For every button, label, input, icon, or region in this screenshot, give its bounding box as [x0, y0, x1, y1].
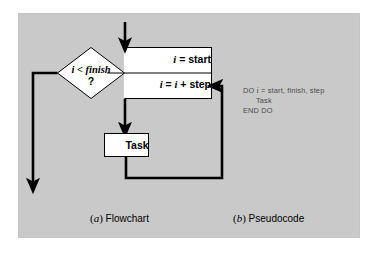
- pseudocode-do-range: = start, finish, step: [259, 86, 325, 95]
- init-expression: = start: [176, 53, 211, 65]
- caption-pseudocode: (b) Pseudocode: [233, 212, 304, 224]
- figure-root: i < finish ? i = start i = i + step Task…: [0, 0, 380, 253]
- pseudocode-task-text: Task: [256, 96, 272, 105]
- condition-label: i < finish ?: [60, 64, 122, 87]
- pseudocode-line-do: DO i = start, finish, step: [243, 86, 324, 96]
- caption-a-letter: a: [94, 212, 100, 224]
- caption-a-marker: (a): [90, 212, 103, 224]
- caption-b-marker: (b): [233, 212, 246, 224]
- pseudocode-block: DO i = start, finish, step Task END DO: [243, 86, 324, 116]
- pseudocode-enddo-text: END DO: [243, 106, 273, 115]
- flowchart-graphics: [0, 0, 380, 253]
- task-box-label: Task: [118, 140, 156, 151]
- caption-flowchart: (a) Flowchart: [90, 212, 149, 224]
- increment-operator: =: [163, 78, 175, 90]
- pseudocode-do-keyword: DO: [243, 86, 257, 95]
- condition-question-mark: ?: [60, 76, 122, 87]
- increment-expression: + step: [177, 78, 211, 90]
- caption-a-text: Flowchart: [103, 213, 149, 224]
- caption-b-letter: b: [237, 212, 243, 224]
- pseudocode-line-enddo: END DO: [243, 106, 324, 116]
- increment-row-label: i = i + step: [140, 79, 211, 90]
- caption-b-text: Pseudocode: [246, 213, 304, 224]
- pseudocode-line-task: Task: [243, 96, 324, 106]
- return-loop-arrow: [126, 86, 222, 178]
- exit-arrow: [33, 73, 58, 186]
- condition-expression: i < finish: [71, 64, 110, 75]
- init-row-label: i = start: [146, 54, 211, 65]
